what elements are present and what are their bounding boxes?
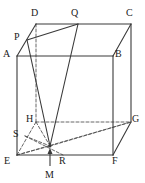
vertex-label-E: E [4, 156, 10, 166]
vertex-label-F: F [112, 156, 118, 166]
vertex-label-H: H [26, 114, 33, 124]
hidden-line-MG [50, 122, 131, 146]
point-label-S: S [13, 129, 19, 139]
point-label-R: R [59, 156, 66, 166]
point-label-P: P [14, 32, 20, 42]
edge-FG [113, 122, 131, 155]
hidden-line-SM [25, 136, 50, 146]
hidden-line-SR [25, 136, 63, 155]
arrow-group [48, 148, 53, 166]
vertex-label-D: D [31, 8, 38, 18]
vertex-label-A: A [3, 49, 10, 59]
point-dot-M [49, 145, 52, 148]
point-label-Q: Q [71, 8, 78, 18]
vertex-label-C: C [126, 8, 133, 18]
vertex-label-G: G [132, 114, 139, 124]
line-QM [50, 24, 78, 146]
hidden-line-EM [17, 146, 50, 155]
vertex-label-B: B [115, 49, 122, 59]
solid-construction-group [27, 24, 78, 146]
geometry-figure: ABCDEFGHPQSRM [0, 0, 145, 183]
point-label-M: M [45, 170, 54, 180]
arrow-head [48, 148, 53, 154]
point-dot-group [49, 145, 52, 148]
hidden-construction-group [17, 122, 131, 155]
geometry-canvas [0, 0, 145, 183]
